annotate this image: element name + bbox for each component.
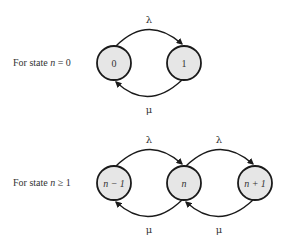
lambda-label: λ	[146, 14, 153, 25]
state-node-n-plus-1-label: n + 1	[244, 178, 266, 189]
mu-label-1: μ	[146, 224, 153, 235]
arrival-arc	[116, 29, 182, 46]
lambda-label-2: λ	[216, 134, 223, 145]
mu-label-2: μ	[216, 224, 223, 235]
diagram-svg: 0 1 λ μ n − 1 n n + 1 λ λ μ μ	[0, 0, 288, 243]
birth-death-diagram: For state n = 0 For state n ≥ 1 0 1 λ μ	[0, 0, 288, 243]
state-node-n-minus-1-label: n − 1	[103, 178, 125, 189]
arrival-arc-1	[116, 149, 182, 166]
service-arc	[116, 80, 182, 97]
arrival-arc-2	[186, 149, 253, 166]
mu-label: μ	[146, 104, 153, 115]
state-node-n-label: n	[182, 178, 187, 189]
state-node-0-label: 0	[112, 58, 117, 69]
service-arc-1	[116, 200, 182, 217]
row-state-n: n − 1 n n + 1 λ λ μ μ	[97, 134, 272, 235]
lambda-label-1: λ	[146, 134, 153, 145]
state-node-1-label: 1	[182, 58, 187, 69]
service-arc-2	[186, 200, 253, 217]
row-state-zero: 0 1 λ μ	[97, 14, 201, 115]
